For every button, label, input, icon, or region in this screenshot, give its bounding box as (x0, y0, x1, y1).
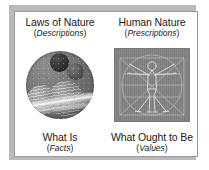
column-footing-what-ought-to-be: What Ought to Be (111, 131, 193, 143)
planet-ringed-center-icon (48, 81, 84, 117)
moon-dark-icon (50, 53, 69, 72)
column-subheading-prescriptions: (Prescriptions) (125, 28, 180, 38)
column-footnote-values: (Values) (136, 143, 167, 156)
subheading-close-paren: ) (83, 28, 86, 38)
figure-wrap-left (15, 38, 105, 131)
planets-montage-image (26, 51, 94, 119)
footnote-text: Facts (50, 143, 71, 153)
concept-columns: Laws of Nature (Descriptions) What Is (15, 12, 197, 156)
column-laws-of-nature: Laws of Nature (Descriptions) What Is (15, 12, 106, 156)
planet-ring-icon (26, 88, 94, 114)
column-subheading-descriptions: (Descriptions) (34, 28, 86, 38)
concept-card: Laws of Nature (Descriptions) What Is (14, 11, 198, 157)
subheading-close-paren: ) (177, 28, 180, 38)
column-heading-human-nature: Human Nature (118, 16, 185, 28)
column-footing-what-is: What Is (43, 131, 78, 143)
vitruvian-man-image (114, 48, 190, 122)
planet-ring-secondary-icon (26, 99, 94, 117)
planet-small-icon (67, 63, 84, 80)
figure-wrap-right (107, 38, 197, 131)
planet-ringed-left-icon (27, 85, 57, 115)
subheading-text: Prescriptions (127, 28, 176, 38)
column-footnote-facts: (Facts) (47, 143, 73, 156)
column-heading-laws-of-nature: Laws of Nature (25, 16, 94, 28)
footnote-close-paren: ) (165, 143, 168, 153)
footnote-close-paren: ) (70, 143, 73, 153)
subheading-text: Descriptions (37, 28, 84, 38)
footnote-text: Values (139, 143, 165, 153)
diagram-canvas: Laws of Nature (Descriptions) What Is (0, 0, 209, 170)
column-human-nature: Human Nature (Prescriptions) (106, 12, 197, 156)
vitruvian-man-icon (115, 49, 189, 121)
